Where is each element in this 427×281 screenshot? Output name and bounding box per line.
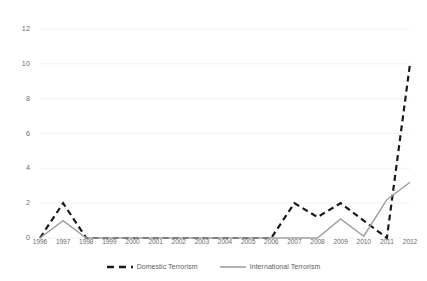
- y-axis-tick-4: 4: [6, 164, 30, 172]
- chart-legend: Domestic Terrorism International Terrori…: [0, 262, 427, 271]
- legend-solid-line-icon: [220, 263, 246, 271]
- legend-item-domestic-terrorism[interactable]: Domestic Terrorism: [107, 262, 198, 271]
- gridlines: [40, 29, 410, 238]
- x-axis-tick-2012: 2012: [395, 238, 425, 246]
- series-lines: [40, 64, 410, 238]
- legend-dashed-line-icon: [107, 263, 133, 271]
- series-line-domestic-terrorism: [40, 64, 410, 238]
- legend-item-international-terrorism[interactable]: International Terrorism: [220, 262, 321, 271]
- y-axis-tick-12: 12: [6, 25, 30, 33]
- chart-canvas: [0, 0, 427, 252]
- series-line-international-terrorism: [40, 182, 410, 238]
- terrorism-incidents-line-chart: 024681012 199619971998199920002001200220…: [0, 0, 427, 281]
- legend-label-domestic-terrorism: Domestic Terrorism: [137, 262, 198, 271]
- y-axis-tick-8: 8: [6, 95, 30, 103]
- legend-label-international-terrorism: International Terrorism: [250, 262, 321, 271]
- y-axis-tick-2: 2: [6, 199, 30, 207]
- y-axis-tick-6: 6: [6, 130, 30, 138]
- y-axis-tick-10: 10: [6, 60, 30, 68]
- plot-area: 024681012 199619971998199920002001200220…: [0, 0, 427, 252]
